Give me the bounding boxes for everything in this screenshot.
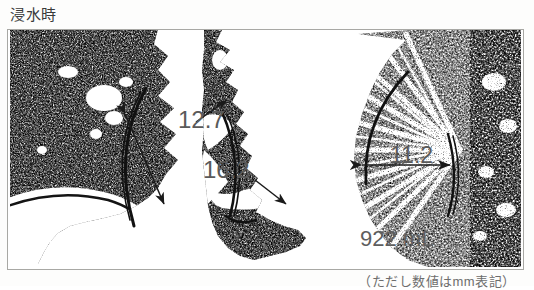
- measurement-label-16-2: 16.2: [203, 156, 250, 184]
- figure-frame: [7, 29, 524, 270]
- figure-title: 浸水時: [10, 3, 57, 24]
- figure-caption: （ただし数値はmm表記）: [358, 271, 516, 290]
- scan-image: [8, 30, 523, 269]
- measurement-label-12-7: 12.7: [178, 106, 225, 134]
- measurement-label-11-2: 11.2: [390, 142, 433, 169]
- volume-label: 922 mL: [360, 226, 433, 252]
